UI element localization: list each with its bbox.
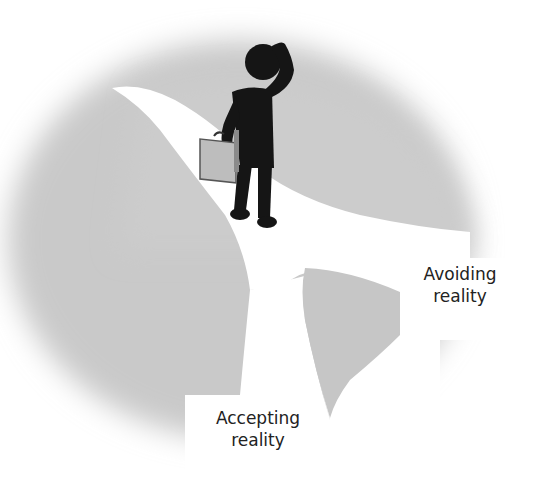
- avoiding-line1: Avoiding: [410, 263, 510, 285]
- avoiding-reality-label: Avoiding reality: [410, 263, 510, 307]
- accepting-line1: Accepting: [188, 407, 328, 429]
- accepting-reality-label: Accepting reality: [188, 407, 328, 451]
- accepting-line2: reality: [188, 429, 328, 451]
- avoiding-line2: reality: [410, 285, 510, 307]
